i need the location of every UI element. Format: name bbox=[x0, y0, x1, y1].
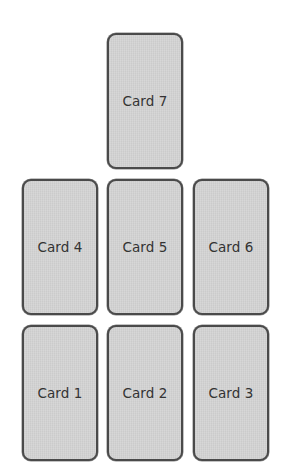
card-2-label: Card 2 bbox=[122, 385, 167, 401]
card-3-label: Card 3 bbox=[208, 385, 253, 401]
card-6-label: Card 6 bbox=[208, 239, 253, 255]
card-7-label: Card 7 bbox=[122, 93, 167, 109]
card-5: Card 5 bbox=[107, 179, 183, 315]
card-7: Card 7 bbox=[107, 33, 183, 169]
card-4: Card 4 bbox=[22, 179, 98, 315]
card-2: Card 2 bbox=[107, 325, 183, 461]
card-4-label: Card 4 bbox=[37, 239, 82, 255]
card-5-label: Card 5 bbox=[122, 239, 167, 255]
card-1-label: Card 1 bbox=[37, 385, 82, 401]
card-3: Card 3 bbox=[193, 325, 269, 461]
card-1: Card 1 bbox=[22, 325, 98, 461]
card-6: Card 6 bbox=[193, 179, 269, 315]
